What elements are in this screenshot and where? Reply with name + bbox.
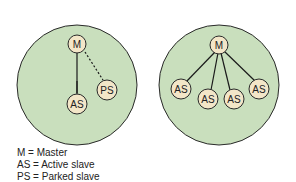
piconet-left: M PS AS <box>17 25 137 145</box>
node-label: AS <box>227 94 241 105</box>
node-active-slave: AS <box>224 89 244 109</box>
legend-master: M = Master <box>17 147 100 159</box>
node-master: M <box>210 36 228 54</box>
node-label: M <box>215 40 223 51</box>
node-label: AS <box>252 84 266 95</box>
legend-parked-slave: PS = Parked slave <box>17 171 100 182</box>
node-label: M <box>73 39 81 50</box>
node-label: PS <box>100 85 114 96</box>
node-active-slave: AS <box>198 89 218 109</box>
node-active-slave: AS <box>249 79 269 99</box>
node-parked-slave: PS <box>97 80 117 100</box>
node-label: AS <box>70 99 84 110</box>
node-active-slave: AS <box>171 79 191 99</box>
piconet-right: M AS AS AS AS <box>159 25 279 145</box>
node-label: AS <box>174 84 188 95</box>
node-label: AS <box>201 94 215 105</box>
node-master: M <box>68 35 86 53</box>
legend-active-slave: AS = Active slave <box>17 159 100 171</box>
node-active-slave: AS <box>67 94 87 114</box>
legend: M = Master AS = Active slave PS = Parked… <box>17 147 100 182</box>
